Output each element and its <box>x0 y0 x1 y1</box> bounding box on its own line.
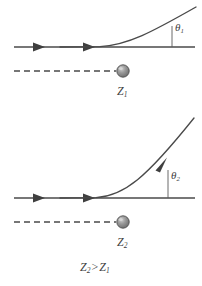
caption-left-term: Z <box>80 260 87 274</box>
panel-top <box>14 7 196 77</box>
theta1-label: θ1 <box>175 22 184 33</box>
nucleus-highlight-z1 <box>119 67 123 70</box>
theta1-subscript: 1 <box>180 27 183 34</box>
caption-right-subscript: 1 <box>106 266 110 275</box>
beam-arrowhead-bottom-1 <box>33 194 45 203</box>
nucleus-label-z2: Z2 <box>117 236 127 248</box>
theta2-label: θ2 <box>171 170 180 181</box>
z1-symbol: Z <box>117 84 124 98</box>
z2-subscript: 2 <box>124 241 128 250</box>
panel-bottom <box>14 118 195 228</box>
theta2-subscript: 2 <box>176 175 179 182</box>
z1-subscript: 1 <box>124 90 128 99</box>
relation-caption: Z2>Z1 <box>80 261 110 273</box>
trajectory-arrowhead-bottom <box>156 158 168 173</box>
z2-symbol: Z <box>117 235 124 249</box>
nucleus-highlight-z2 <box>119 218 123 221</box>
caption-operator: > <box>90 260 99 274</box>
deflected-trajectory-bottom <box>60 118 194 198</box>
nucleus-label-z1: Z1 <box>117 85 127 97</box>
beam-arrowhead-top-1 <box>33 43 45 52</box>
scattering-figure: θ1 θ2 Z1 Z2 Z2>Z1 <box>0 0 202 286</box>
caption-left-subscript: 2 <box>87 266 91 275</box>
caption-right-term: Z <box>99 260 106 274</box>
scattering-diagram-svg <box>0 0 202 286</box>
nucleus-sphere-z2 <box>117 216 129 228</box>
nucleus-sphere-z1 <box>117 65 129 77</box>
